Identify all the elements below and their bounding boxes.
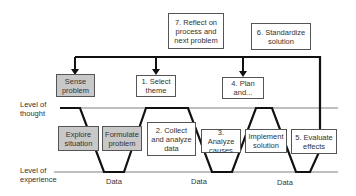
level-experience-label: Level of experience [20, 166, 57, 184]
implement-solution-box: Implement solution [245, 129, 287, 153]
formulate-problem-box: Formulate problem [102, 126, 142, 151]
explore-situation-box: Explore situation [58, 126, 99, 151]
collect-data-box: 2. Collect and analyze data [147, 122, 196, 156]
reflect-box: 7. Reflect on process and next problem [168, 13, 224, 49]
evaluate-effects-box: 5. Evaluate effects [291, 129, 337, 154]
data-label: Data [191, 177, 207, 186]
sense-problem-box: Sense problem [56, 74, 95, 97]
select-theme-box: 1. Select theme [136, 75, 176, 97]
data-label: Data [277, 178, 293, 187]
level-thought-label: Level of thought [20, 100, 46, 118]
standardize-box: 6. Standardize solution [251, 23, 311, 50]
plan-box: 4. Plan and... [222, 77, 264, 99]
data-label: Data [106, 177, 122, 186]
analyze-causes-box: 3. Analyze causes [201, 129, 241, 153]
